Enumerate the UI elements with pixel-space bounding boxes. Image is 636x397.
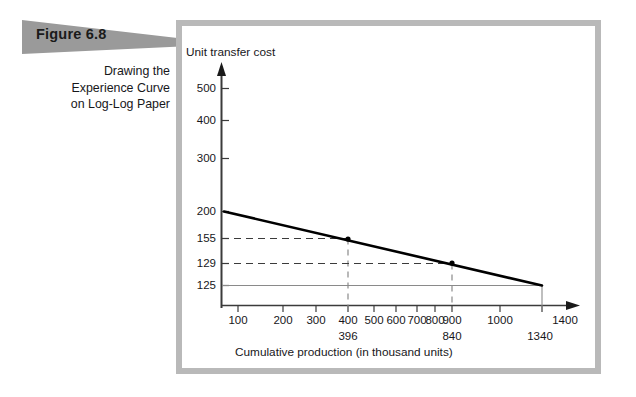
y-tick-label-200: 200 [176, 205, 216, 217]
x-callout-1340: 1340 [518, 330, 562, 342]
y-tick-label-125: 125 [176, 279, 216, 291]
x-tick-label-1000: 1000 [480, 314, 520, 326]
x-callout-396: 396 [326, 330, 370, 342]
y-tick-label-500: 500 [176, 82, 216, 94]
x-axis-title: Cumulative production (in thousand units… [235, 345, 453, 359]
figure-label: Figure 6.8 [36, 26, 107, 42]
x-tick-label-1400: 1400 [545, 314, 585, 326]
figure-caption-line-2: Experience Curve [10, 80, 170, 97]
figure-caption-line-3: on Log-Log Paper [10, 96, 170, 113]
y-tick-label-155: 155 [176, 232, 216, 244]
y-tick-label-300: 300 [176, 152, 216, 164]
x-tick-label-100: 100 [218, 314, 258, 326]
figure-caption: Drawing the Experience Curve on Log-Log … [10, 63, 170, 113]
y-tick-label-400: 400 [176, 114, 216, 126]
x-callout-840: 840 [430, 330, 474, 342]
figure-caption-line-1: Drawing the [10, 63, 170, 80]
y-tick-label-129: 129 [176, 257, 216, 269]
y-axis-title: Unit transfer cost [186, 45, 275, 59]
x-tick-label-900: 900 [432, 314, 472, 326]
